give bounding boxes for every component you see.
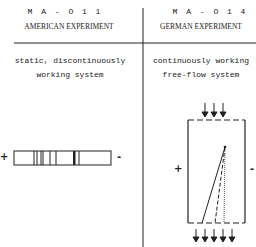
left-experiment-title: AMERICAN EXPERIMENT bbox=[4, 22, 134, 31]
right-description-line1: continuously working bbox=[146, 56, 256, 65]
right-anode-plus-label: + bbox=[174, 163, 182, 174]
left-anode-plus-label: + bbox=[0, 151, 8, 162]
right-experiment-code: M A - O 1 4 bbox=[165, 7, 255, 16]
right-cathode-minus-label: - bbox=[250, 163, 254, 174]
outflow-arrows bbox=[193, 229, 235, 242]
right-description-line2: free-flow system bbox=[146, 70, 256, 79]
diagram-graphics bbox=[0, 0, 256, 247]
left-experiment-code: M A - O 1 1 bbox=[20, 7, 110, 16]
inflow-arrows bbox=[202, 103, 226, 117]
left-description-line1: static, discontinuously bbox=[0, 56, 140, 65]
flow-chamber bbox=[188, 103, 245, 242]
left-description-line2: working system bbox=[0, 70, 140, 79]
right-experiment-title: GERMAN EXPERIMENT bbox=[146, 22, 256, 31]
left-cathode-minus-label: - bbox=[117, 151, 121, 162]
electrophoresis-strip bbox=[14, 151, 111, 165]
